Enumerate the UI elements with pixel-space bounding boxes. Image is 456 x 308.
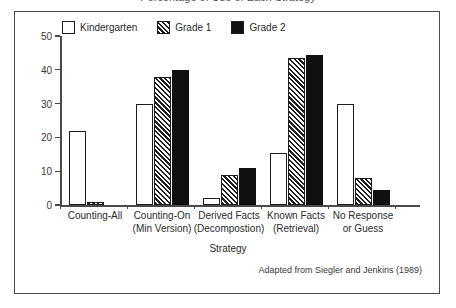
x-category-line-1: No Response [333,210,394,221]
bar-grade-1 [221,175,238,205]
x-axis-category-labels: Counting-AllCounting-On(Min Version)Deri… [60,210,422,244]
x-axis-title: Strategy [0,243,456,254]
y-tick-label: 50 [26,31,52,42]
y-tick-label: 20 [26,132,52,143]
bar-kindergarten [69,131,86,205]
y-tick-mark [55,35,60,36]
x-tick-mark [60,205,61,209]
y-tick-mark [55,137,60,138]
y-tick-label: 30 [26,98,52,109]
y-tick-label: 40 [26,64,52,75]
y-tick-label: 0 [26,200,52,211]
solid-square-icon [231,21,244,34]
bar-grade-1 [154,77,171,205]
y-tick-mark [55,69,60,70]
bar-grade-2 [239,168,256,205]
legend-item-kindergarten: Kindergarten [62,21,137,34]
bar-grade-2 [306,55,323,205]
y-axis-title: Percentage of Use [26,0,37,20]
x-category-label: No Responseor Guess [317,210,409,235]
legend-label-grade-2: Grade 2 [249,22,285,33]
x-axis-line [60,205,420,207]
bar-grade-1 [288,58,305,205]
attribution-note: Adapted from Siegler and Jenkins (1989) [258,265,422,275]
bar-kindergarten [270,153,287,205]
legend-item-grade-1: Grade 1 [157,21,211,34]
hatched-square-icon [157,21,170,34]
x-category-line-2: or Guess [317,223,409,236]
y-tick-mark [55,171,60,172]
x-tick-mark [328,205,329,209]
bar-kindergarten [337,104,354,205]
x-category-line-1: Counting-All [68,210,122,221]
x-tick-mark [194,205,195,209]
bar-kindergarten [136,104,153,205]
bar-grade-2 [172,70,189,205]
bar-kindergarten [203,198,220,205]
y-axis-line [60,36,62,205]
bar-grade-1 [87,202,104,205]
x-category-line-1: Counting-On [134,210,191,221]
legend-item-grade-2: Grade 2 [231,21,285,34]
bar-grade-1 [355,178,372,205]
legend-label-kindergarten: Kindergarten [80,22,137,33]
x-tick-mark [395,205,396,209]
y-tick-label: 10 [26,166,52,177]
chart-legend: Kindergarten Grade 1 Grade 2 [62,21,286,34]
bar-grade-2 [373,190,390,205]
plot-area: Percentage of Use 01020304050 [60,36,420,205]
open-square-icon [62,21,75,34]
legend-label-grade-1: Grade 1 [175,22,211,33]
y-axis-tick-labels: 01020304050 [26,36,52,205]
x-tick-mark [261,205,262,209]
clipped-figure-title: Percentage of Use of Each Strategy [0,0,456,5]
y-tick-mark [55,103,60,104]
x-tick-mark [127,205,128,209]
